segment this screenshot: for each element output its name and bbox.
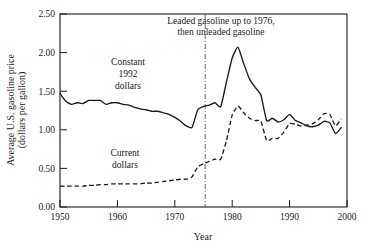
x-axis-title: Year [194, 231, 213, 242]
x-tick-labels: 1950 1960 1970 1980 1990 2000 [51, 212, 357, 222]
series-label-current-line1: Current [110, 148, 139, 158]
series-label-constant-line3: dollars [115, 81, 141, 91]
y-tick-labels: 0.00 0.50 1.00 1.50 2.00 2.50 [38, 9, 55, 212]
x-tick-label: 2000 [338, 212, 357, 222]
series-line-constant-1992-dollars [60, 47, 341, 133]
series-label-current-line2: dollars [112, 160, 138, 170]
gasoline-price-figure: 0.00 0.50 1.00 1.50 2.00 2.50 1950 1960 … [0, 0, 370, 252]
x-tick-label: 1970 [165, 212, 184, 222]
x-tick-label: 1950 [51, 212, 70, 222]
series-label-constant-line1: Constant [111, 57, 145, 67]
x-tick-marks [60, 200, 347, 207]
y-tick-label: 0.00 [38, 202, 55, 212]
y-tick-label: 1.50 [38, 87, 55, 97]
plot-frame [60, 14, 347, 207]
y-tick-label: 2.50 [38, 9, 55, 19]
x-tick-label: 1990 [280, 212, 299, 222]
y-axis-title-line1: Average U.S. gasoline price [5, 54, 16, 166]
series-line-current-dollars [60, 106, 341, 186]
annotation-line2: then unleaded gasoline [177, 27, 264, 37]
x-tick-label: 1960 [108, 212, 127, 222]
y-tick-marks [60, 14, 67, 207]
chart-canvas: 0.00 0.50 1.00 1.50 2.00 2.50 1950 1960 … [0, 0, 370, 252]
y-tick-label: 0.50 [38, 164, 55, 174]
x-tick-label: 1980 [223, 212, 242, 222]
series-label-constant-line2: 1992 [119, 69, 138, 79]
y-axis-title-line2: (dollars per gallon) [16, 72, 28, 149]
annotation-line1: Leaded gasoline up to 1976, [167, 16, 274, 26]
y-tick-label: 2.00 [38, 48, 55, 58]
y-tick-label: 1.00 [38, 125, 55, 135]
